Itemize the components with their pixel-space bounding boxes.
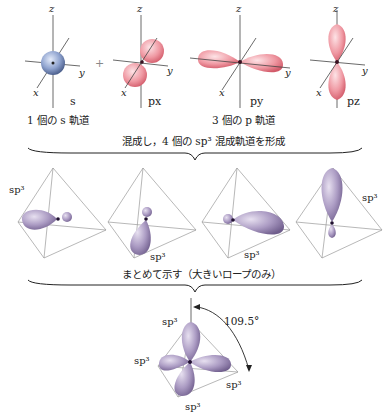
bond-angle: 109.5° bbox=[224, 316, 259, 327]
axis-z-px: z bbox=[137, 4, 142, 14]
py-label: py bbox=[250, 96, 263, 107]
sp3-orbital-3 bbox=[202, 168, 290, 258]
sp3-label-2: sp³ bbox=[150, 252, 166, 262]
combined-sp3-bottom: sp³ bbox=[185, 402, 201, 412]
combined-sp3-right: sp³ bbox=[226, 380, 242, 390]
sp3-label-4: sp³ bbox=[362, 193, 378, 203]
axis-z-py: z bbox=[236, 4, 241, 14]
py-orbital bbox=[190, 15, 290, 108]
axis-x-pz: x bbox=[316, 88, 322, 98]
combined-sp3-top: sp³ bbox=[162, 317, 178, 327]
px-label: px bbox=[148, 96, 161, 107]
combined-sp3-left: sp³ bbox=[134, 356, 150, 366]
brace-1 bbox=[28, 148, 362, 160]
brace1-caption: 混成し，4 個の sp³ 混成軌道を形成 bbox=[122, 133, 285, 148]
axis-x-py: x bbox=[219, 88, 225, 98]
brace-2 bbox=[28, 280, 362, 292]
sp3-orbital-1 bbox=[18, 168, 106, 258]
p-caption: 3 個の p 軌道 bbox=[212, 112, 275, 127]
plus-sign: + bbox=[95, 58, 104, 69]
s-caption: 1 個の s 軌道 bbox=[27, 112, 89, 127]
axis-y-px: y bbox=[167, 66, 173, 76]
axis-z-s: z bbox=[49, 4, 54, 14]
sp3-orbital-4 bbox=[296, 168, 382, 258]
pz-label: pz bbox=[347, 96, 360, 107]
axis-y-s: y bbox=[79, 68, 85, 78]
brace2-caption: まとめて示す（大きいロープのみ） bbox=[122, 266, 281, 281]
orbital-diagram bbox=[0, 0, 390, 414]
axis-z-pz: z bbox=[333, 4, 338, 14]
sp3-label-1: sp³ bbox=[9, 185, 25, 195]
s-label: s bbox=[70, 96, 76, 107]
sp3-label-3: sp³ bbox=[244, 250, 260, 260]
axis-y-pz: y bbox=[362, 66, 368, 76]
axis-x-px: x bbox=[121, 88, 127, 98]
sp3-orbital-2 bbox=[108, 168, 196, 258]
axis-y-py: y bbox=[285, 68, 291, 78]
axis-x-s: x bbox=[33, 88, 39, 98]
